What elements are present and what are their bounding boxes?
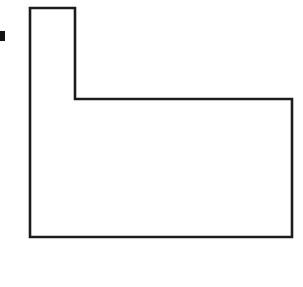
- figure-canvas: Scanned black-and-white outline drawing …: [0, 0, 303, 287]
- l-shape-figure: [0, 0, 303, 287]
- edge-tick-mark: [0, 31, 5, 41]
